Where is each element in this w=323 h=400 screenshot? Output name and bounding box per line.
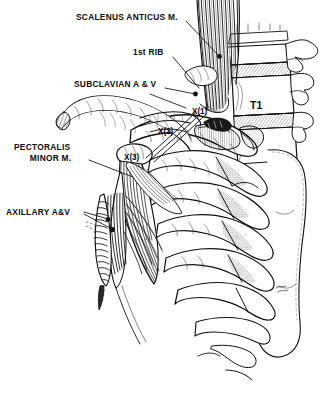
label-vertebra-t1: T1	[250, 99, 262, 111]
marker-compression-point-3: X(3)	[124, 152, 139, 162]
marker-compression-point-2: X(2)	[158, 126, 173, 136]
leader-dot-axillary-artery	[106, 217, 111, 222]
leader-dot-axillary-vein	[110, 227, 115, 232]
leader-subclavian	[165, 88, 195, 94]
marker-compression-point-1: X(1)	[192, 106, 207, 116]
leader-subclavian-second	[150, 94, 186, 108]
scalenus-anticus-muscle	[185, 0, 239, 113]
illustration-linework	[56, 0, 318, 380]
label-pectoralis-minor: PECTORALIS MINOR M.	[14, 142, 71, 163]
label-first-rib: 1st RIB	[133, 47, 164, 58]
label-subclavian-vessels: SUBCLAVIAN A & V	[74, 79, 156, 90]
label-axillary-vessels: AXILLARY A&V	[6, 207, 70, 218]
anatomy-illustration	[0, 0, 323, 400]
label-pectoralis-minor-line2: MINOR M.	[14, 153, 71, 164]
leader-dot-scalenus-anticus	[217, 54, 222, 59]
label-scalenus-anticus: SCALENUS ANTICUS M.	[76, 12, 178, 23]
leader-dot-subclavian	[193, 92, 198, 97]
label-pectoralis-minor-line1: PECTORALIS	[14, 141, 70, 152]
anatomical-figure: SCALENUS ANTICUS M. 1st RIB SUBCLAVIAN A…	[0, 0, 323, 400]
